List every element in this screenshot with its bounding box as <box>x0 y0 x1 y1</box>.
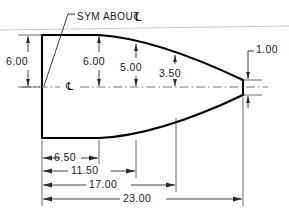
dim-label-height-3p50: 3.50 <box>159 67 181 79</box>
sym-about-leader-line <box>44 14 75 86</box>
dim-label-length-23p00: 23.00 <box>123 192 151 204</box>
dim-label-nose-height: 1.00 <box>256 43 278 55</box>
sym-about-note-label: SYM ABOUT <box>77 11 140 22</box>
sym-about-centerline-icon: ℄ <box>133 11 141 23</box>
part-profile-drawing: ℄ SYM ABOUT ℄ 6.00 6.00 5.00 3.50 1.00 <box>0 0 289 216</box>
dim-label-height-5p00: 5.00 <box>120 61 142 73</box>
dim-label-length-17p00: 17.00 <box>89 178 117 190</box>
nose-dim-leader <box>248 51 254 58</box>
technical-drawing-canvas: ℄ SYM ABOUT ℄ 6.00 6.00 5.00 3.50 1.00 <box>0 0 289 216</box>
centerline-symbol-icon: ℄ <box>65 80 73 92</box>
dim-label-height-6p00: 6.00 <box>83 55 105 67</box>
dim-label-length-6p50: 6.50 <box>54 151 76 163</box>
scan-artifact-line <box>0 26 289 30</box>
dim-label-height-left: 6.00 <box>6 55 28 67</box>
dim-label-length-11p50: 11.50 <box>71 164 99 176</box>
